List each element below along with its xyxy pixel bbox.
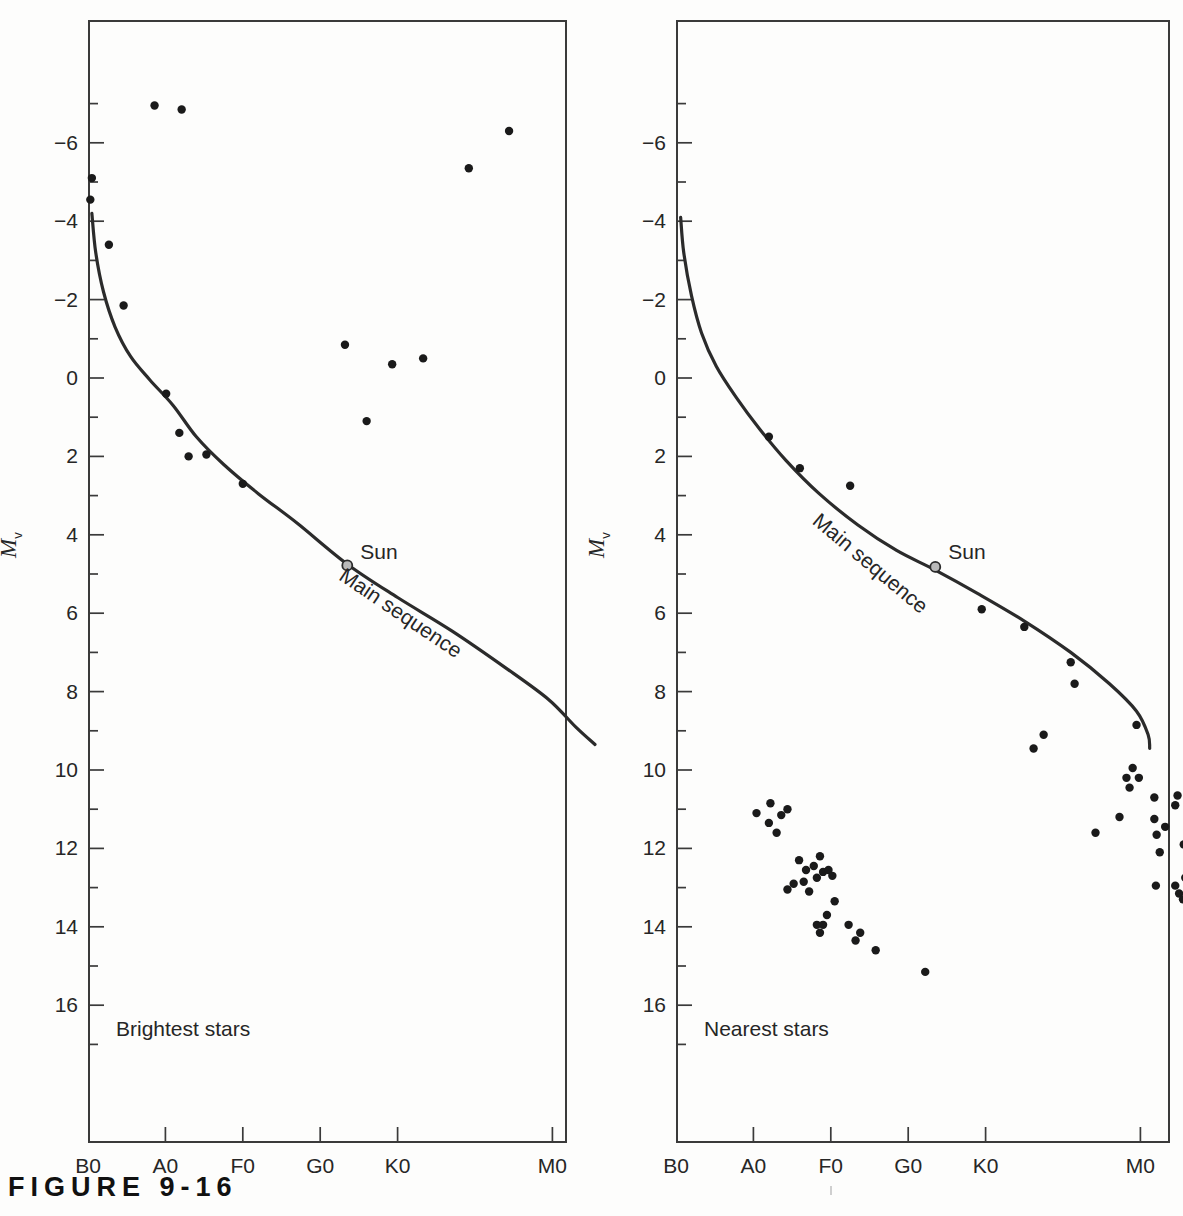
x-tick-label: G0 [882,1155,934,1176]
y-tick-label: 14 [26,916,78,937]
y-tick-label: 12 [26,837,78,858]
plot-canvas-nearest [600,0,1183,1216]
x-tick-label: M0 [1114,1155,1166,1176]
y-tick-label: −2 [614,289,666,310]
x-tick-label: K0 [960,1155,1012,1176]
sun-label-brightest: Sun [360,540,397,564]
y-tick-label: 4 [26,524,78,545]
panel-caption-nearest: Nearest stars [704,1017,829,1041]
y-axis-symbol: M [0,539,21,558]
y-tick-label: 6 [26,602,78,623]
x-tick-label: A0 [727,1155,779,1176]
y-tick-label: 16 [26,994,78,1015]
figure-caption: FIGURE 9-16 [8,1172,238,1203]
x-tick-label: B0 [650,1155,702,1176]
x-tick-label: K0 [372,1155,424,1176]
y-tick-label: −6 [26,132,78,153]
y-tick-label: 14 [614,916,666,937]
y-tick-label: 0 [26,367,78,388]
y-tick-label: 6 [614,602,666,623]
y-tick-label: 10 [614,759,666,780]
y-axis-title-nearest: Mv [584,533,613,559]
y-axis-title-brightest: Mv [0,533,25,559]
y-tick-label: 0 [614,367,666,388]
x-tick-label: M0 [526,1155,578,1176]
y-tick-label: −2 [26,289,78,310]
plot-canvas-brightest [0,0,600,1216]
sun-label-nearest: Sun [948,540,985,564]
y-tick-label: −6 [614,132,666,153]
y-tick-label: 2 [26,445,78,466]
y-tick-label: −4 [614,210,666,231]
y-tick-label: 2 [614,445,666,466]
panel-caption-brightest: Brightest stars [116,1017,250,1041]
x-tick-label: F0 [805,1155,857,1176]
x-tick-label: G0 [294,1155,346,1176]
y-tick-label: 16 [614,994,666,1015]
y-tick-label: 12 [614,837,666,858]
y-tick-label: 8 [26,681,78,702]
y-axis-subscript: v [10,533,25,540]
panel-brightest-stars: Mv Brightest stars Sun Main sequence −6−… [0,0,600,1216]
y-axis-subscript: v [598,533,613,540]
y-tick-label: −4 [26,210,78,231]
y-tick-label: 10 [26,759,78,780]
y-tick-label: 8 [614,681,666,702]
figure-9-16: Mv Brightest stars Sun Main sequence −6−… [0,0,1183,1216]
y-tick-label: 4 [614,524,666,545]
print-speck [830,1186,832,1195]
panel-nearest-stars: Mv Nearest stars Sun Main sequence −6−4−… [600,0,1183,1216]
y-axis-symbol: M [584,539,609,558]
